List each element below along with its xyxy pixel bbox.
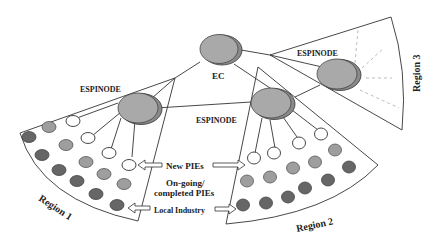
espinode-network-diagram: EC ESPINODE ESPINODE ESPINODE	[0, 0, 434, 245]
region-1-pies	[22, 116, 136, 211]
arrow-right-local-industry	[215, 204, 236, 214]
espinode-2-label: ESPINODE	[196, 116, 237, 125]
region-3-label: Region 3	[411, 55, 422, 93]
espinode-1-label: ESPINODE	[80, 85, 121, 94]
arrow-left-local-industry	[128, 203, 150, 213]
legend-ongoing-line1: On-going/	[166, 178, 205, 188]
legend-local-industry: Local Industry	[154, 206, 205, 215]
ec-label: EC	[212, 71, 225, 81]
region-1-label: Region 1	[37, 192, 74, 222]
arrow-left-new-pies	[138, 160, 162, 170]
region-2-label: Region 2	[295, 215, 334, 234]
espinode-3-label: ESPINODE	[297, 49, 338, 58]
ec-node: EC	[200, 35, 242, 82]
legend-ongoing-line2: completed PIEs	[154, 188, 215, 198]
arrow-right-new-pies	[213, 160, 245, 170]
espinode-2: ESPINODE	[196, 88, 295, 125]
region-2-pies	[237, 128, 356, 211]
espinode-3: ESPINODE	[297, 49, 361, 91]
legend-new-pies: New PIEs	[166, 161, 204, 171]
